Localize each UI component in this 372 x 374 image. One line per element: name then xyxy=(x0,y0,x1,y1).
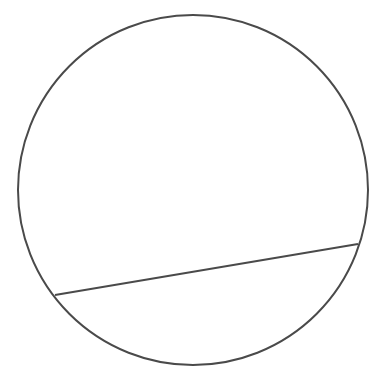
circle-chord-diagram xyxy=(0,0,372,374)
circle xyxy=(18,15,368,365)
chord-line xyxy=(55,244,358,295)
